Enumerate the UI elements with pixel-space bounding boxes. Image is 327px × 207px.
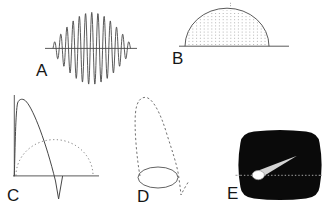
panel-a-label: A (36, 61, 48, 80)
panel-a: A (36, 12, 137, 84)
panel-b: B (172, 3, 289, 68)
panel-c-dotted-arc (16, 140, 93, 176)
multi-panel-figure: A B C D E (0, 0, 327, 207)
panel-c-axes (13, 95, 99, 176)
figure-canvas: A B C D E (0, 0, 327, 207)
panel-d-ellipse (138, 167, 178, 188)
panel-c-solid-curve (14, 99, 62, 199)
panel-e-label: E (227, 184, 238, 203)
panel-d: D (135, 97, 189, 206)
panel-d-label: D (137, 187, 149, 206)
panel-c: C (7, 95, 99, 205)
panel-b-label: B (172, 49, 183, 68)
panel-e-comet-head (252, 171, 264, 180)
panel-d-dashed-curve (135, 97, 189, 195)
panel-b-hatch-lines (189, 10, 265, 45)
panel-c-label: C (7, 186, 19, 205)
panel-e: E (227, 130, 323, 203)
